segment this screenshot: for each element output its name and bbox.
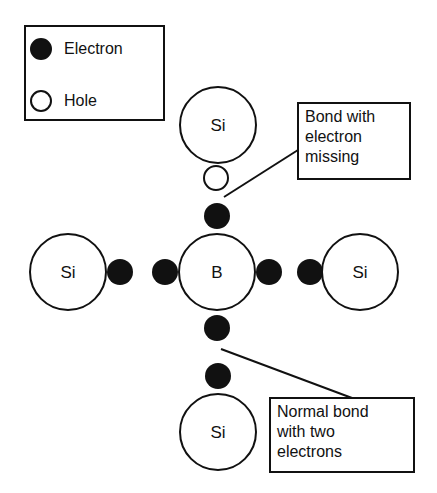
electron-icon — [107, 259, 133, 285]
legend-item-hole: Hole — [30, 90, 97, 112]
hole-icon — [30, 90, 52, 112]
si-atom-right-label: Si — [352, 263, 367, 283]
electron-icon — [297, 259, 323, 285]
electron-icon — [204, 203, 230, 229]
boron-atom-label: B — [211, 263, 222, 283]
legend: Electron Hole — [24, 25, 165, 121]
si-atom-bottom-label: Si — [210, 423, 225, 443]
callout-line: Bond with — [305, 107, 403, 127]
callout-line: Normal bond — [277, 402, 407, 422]
callout-missing-bond: Bond with electron missing — [297, 102, 411, 180]
electron-icon — [152, 259, 178, 285]
callout-line: electrons — [277, 442, 407, 462]
electron-icon — [256, 259, 282, 285]
legend-label: Hole — [64, 92, 97, 110]
callout-line: missing — [305, 147, 403, 167]
legend-item-electron: Electron — [30, 38, 123, 60]
si-atom-top-label: Si — [210, 116, 225, 136]
electron-icon — [205, 363, 231, 389]
legend-label: Electron — [64, 40, 123, 58]
si-atom-left-label: Si — [60, 263, 75, 283]
callout-line: electron — [305, 127, 403, 147]
callout-line: with two — [277, 422, 407, 442]
electron-icon — [204, 315, 230, 341]
callout-normal-bond: Normal bond with two electrons — [269, 397, 415, 473]
electron-icon — [30, 38, 52, 60]
hole-icon — [204, 166, 228, 190]
leader-line-normal-bond — [221, 349, 352, 398]
